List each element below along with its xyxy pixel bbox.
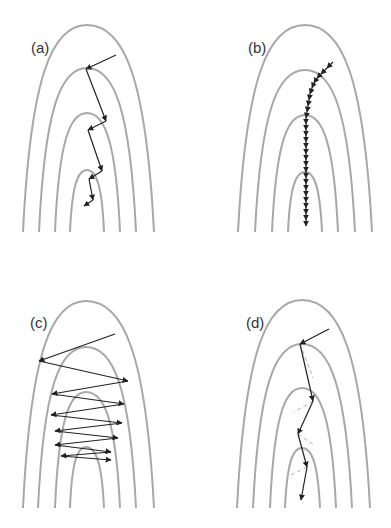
panel-c: (c) <box>23 301 154 508</box>
contour-line <box>255 70 355 232</box>
step-arrow <box>52 394 124 404</box>
step-arrow <box>312 83 314 88</box>
figure: (a) (b) (c) (d) <box>0 0 391 528</box>
contour-line <box>55 113 120 232</box>
contour-line <box>70 447 104 508</box>
panel-label: (d) <box>246 314 264 331</box>
step-arrow <box>55 438 118 445</box>
step-arrow <box>321 68 327 74</box>
panel-label: (b) <box>248 39 266 56</box>
step-arrow <box>89 179 93 200</box>
panel-a: (a) <box>23 25 154 232</box>
step-arrow <box>298 401 313 434</box>
step-arrow <box>61 456 111 460</box>
step-arrow <box>308 100 309 106</box>
step-arrow <box>86 55 116 69</box>
step-arrow <box>61 452 111 456</box>
panel-label: (a) <box>31 39 49 56</box>
figure-canvas: (a) (b) (c) (d) <box>0 0 391 528</box>
step-arrow <box>39 334 115 361</box>
panel-label: (c) <box>30 314 48 331</box>
contour-line <box>288 172 322 232</box>
step-arrow <box>307 106 308 112</box>
step-arrow <box>51 404 124 415</box>
step-arrow <box>314 78 317 83</box>
contour-line <box>272 115 338 232</box>
panel-d: (d) <box>237 300 370 508</box>
contour-line <box>253 344 352 508</box>
step-arrow <box>306 112 307 118</box>
contour-line <box>238 25 372 232</box>
step-arrow <box>55 445 111 452</box>
step-arrow <box>309 94 310 100</box>
step-arrow <box>84 200 93 206</box>
gradient-direction-dashed <box>287 467 307 477</box>
step-arrow <box>327 62 333 68</box>
step-arrow <box>55 431 118 438</box>
step-arrow <box>310 88 312 94</box>
step-arrow <box>88 130 102 171</box>
contour-line <box>285 448 320 508</box>
step-arrow <box>301 467 307 500</box>
contour-line <box>39 68 136 232</box>
step-arrow <box>300 329 329 344</box>
contour-line <box>70 170 104 232</box>
panel-b: (b) <box>238 25 372 232</box>
step-arrow <box>51 415 122 423</box>
